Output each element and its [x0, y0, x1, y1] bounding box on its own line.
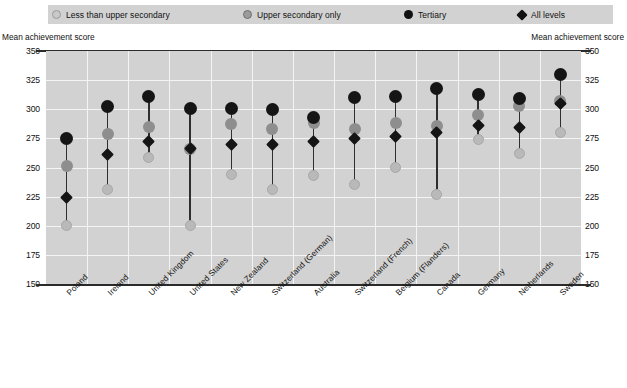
- gridline-vertical: [87, 51, 88, 284]
- legend-item-label: Less than upper secondary: [66, 10, 170, 20]
- point-tertiary: [225, 102, 238, 115]
- gridline-horizontal: [46, 197, 581, 198]
- point-less-than-upper-secondary: [61, 220, 72, 231]
- point-less-than-upper-secondary: [431, 189, 442, 200]
- circle-gray-icon: [243, 10, 252, 19]
- point-tertiary: [184, 102, 197, 115]
- point-tertiary: [60, 132, 73, 145]
- point-tertiary: [142, 90, 155, 103]
- point-upper-secondary-only: [225, 118, 237, 130]
- y-axis-tick-label-left: 150: [0, 279, 40, 289]
- series-connector-line: [66, 138, 67, 225]
- axis-rule-extension-left: [36, 50, 46, 52]
- point-less-than-upper-secondary: [473, 134, 484, 145]
- point-upper-secondary-only: [390, 117, 402, 129]
- gridline-vertical: [458, 51, 459, 284]
- circle-black-icon: [404, 10, 413, 19]
- gridline-vertical: [334, 51, 335, 284]
- gridline-vertical: [252, 51, 253, 284]
- point-tertiary: [348, 91, 361, 104]
- point-upper-secondary-only: [102, 128, 114, 140]
- point-upper-secondary-only: [143, 121, 155, 133]
- y-axis-tick-label-left: 325: [0, 75, 40, 85]
- circle-light-icon: [52, 10, 61, 19]
- axis-rule-extension-right: [581, 284, 591, 286]
- gridline-vertical: [293, 51, 294, 284]
- point-all-levels: [513, 122, 526, 135]
- y-axis-tick-label-right: 225: [585, 192, 625, 202]
- gridline-vertical: [416, 51, 417, 284]
- point-all-levels: [472, 119, 485, 132]
- y-axis-tick-label-left: 200: [0, 221, 40, 231]
- gridline-vertical: [540, 51, 541, 284]
- point-tertiary: [101, 100, 114, 113]
- point-all-levels: [389, 130, 402, 143]
- y-axis-tick-label-right: 300: [585, 104, 625, 114]
- point-tertiary: [430, 82, 443, 95]
- point-all-levels: [225, 138, 238, 151]
- point-tertiary: [472, 88, 485, 101]
- legend-item-3[interactable]: All levels: [518, 5, 565, 24]
- point-upper-secondary-only: [61, 160, 73, 172]
- point-less-than-upper-secondary: [226, 169, 237, 180]
- chart-legend: Less than upper secondaryUpper secondary…: [48, 5, 613, 24]
- legend-item-label: Tertiary: [418, 10, 446, 20]
- y-axis-tick-label-right: 250: [585, 163, 625, 173]
- y-axis-tick-label-right: 325: [585, 75, 625, 85]
- y-axis-tick-label-left: 350: [0, 46, 40, 56]
- y-axis-tick-label-right: 200: [585, 221, 625, 231]
- point-less-than-upper-secondary: [102, 184, 113, 195]
- axis-rule-extension-left: [36, 284, 46, 286]
- gridline-horizontal: [46, 80, 581, 81]
- point-less-than-upper-secondary: [555, 127, 566, 138]
- point-less-than-upper-secondary: [390, 162, 401, 173]
- point-upper-secondary-only: [266, 123, 278, 135]
- y-axis-tick-label-right: 175: [585, 250, 625, 260]
- y-axis-tick-label-right: 275: [585, 133, 625, 143]
- axis-rule-extension-right: [581, 50, 591, 52]
- point-less-than-upper-secondary: [308, 170, 319, 181]
- y-axis-tick-label-right: 150: [585, 279, 625, 289]
- series-connector-line: [436, 88, 437, 194]
- y-axis-tick-label-left: 175: [0, 250, 40, 260]
- legend-item-0[interactable]: Less than upper secondary: [52, 5, 170, 24]
- y-axis-tick-label-left: 250: [0, 163, 40, 173]
- series-connector-line: [189, 108, 190, 226]
- point-tertiary: [266, 103, 279, 116]
- gridline-vertical: [169, 51, 170, 284]
- point-less-than-upper-secondary: [185, 220, 196, 231]
- point-less-than-upper-secondary: [267, 184, 278, 195]
- point-all-levels: [348, 132, 361, 145]
- y-axis-tick-label-left: 300: [0, 104, 40, 114]
- point-less-than-upper-secondary: [514, 148, 525, 159]
- point-tertiary: [513, 92, 526, 105]
- point-tertiary: [554, 68, 567, 81]
- gridline-vertical: [211, 51, 212, 284]
- legend-item-label: Upper secondary only: [257, 10, 341, 20]
- y-axis-tick-label-right: 350: [585, 46, 625, 56]
- point-less-than-upper-secondary: [143, 152, 154, 163]
- legend-item-2[interactable]: Tertiary: [404, 5, 446, 24]
- gridline-vertical: [499, 51, 500, 284]
- diamond-black-icon: [518, 11, 526, 19]
- y-axis-tick-label-left: 275: [0, 133, 40, 143]
- point-all-levels: [101, 148, 114, 161]
- y-axis-caption-right: Mean achievement score: [531, 32, 624, 42]
- y-axis-tick-label-left: 225: [0, 192, 40, 202]
- point-tertiary: [307, 111, 320, 124]
- legend-item-label: All levels: [531, 10, 565, 20]
- point-less-than-upper-secondary: [349, 179, 360, 190]
- point-all-levels: [60, 191, 73, 204]
- gridline-horizontal: [46, 226, 581, 227]
- point-tertiary: [389, 90, 402, 103]
- point-all-levels: [266, 138, 279, 151]
- y-axis-caption-left: Mean achievement score: [2, 32, 95, 42]
- axis-rule-bottom: [46, 284, 581, 286]
- gridline-vertical: [375, 51, 376, 284]
- gridline-vertical: [128, 51, 129, 284]
- legend-item-1[interactable]: Upper secondary only: [243, 5, 341, 24]
